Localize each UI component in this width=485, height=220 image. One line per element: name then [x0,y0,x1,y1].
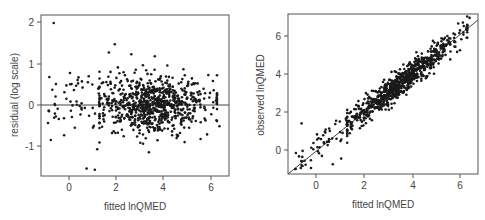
data-point [417,67,420,70]
data-point [135,96,138,99]
data-point [191,92,194,95]
data-point [202,87,205,90]
left-data-points [47,22,221,171]
data-point [446,39,449,42]
data-point [388,109,391,112]
data-point [171,77,174,80]
x-tick-label: 4 [410,180,416,191]
data-point [466,24,469,27]
data-point [79,113,82,116]
data-point [379,87,382,90]
data-point [407,79,410,82]
data-point [138,132,141,135]
data-point [58,118,61,121]
data-point [170,111,173,114]
data-point [113,86,116,89]
data-point [71,116,74,119]
data-point [156,124,159,127]
data-point [203,97,206,100]
data-point [421,52,424,55]
data-point [153,69,156,72]
data-point [156,139,159,142]
x-tick-label: 0 [66,182,72,193]
data-point [194,98,197,101]
data-point [98,103,101,106]
data-point [130,124,133,127]
data-point [93,125,96,128]
data-point [334,123,337,126]
data-point [457,22,460,25]
data-point [181,114,184,117]
data-point [69,100,72,103]
data-point [137,119,140,122]
data-point [177,114,180,117]
data-point [130,53,133,56]
data-point [166,79,169,82]
data-point [172,106,175,109]
data-point [310,159,313,162]
data-point [54,112,57,115]
data-point [161,92,164,95]
data-point [96,148,99,151]
data-point [193,104,196,107]
data-point [382,102,385,105]
data-point [155,89,158,92]
data-point [412,65,415,68]
data-point [301,156,304,159]
data-point [151,123,154,126]
data-point [169,99,172,102]
data-point [458,32,461,35]
data-point [130,115,133,118]
data-point [404,81,407,84]
data-point [183,126,186,129]
data-point [158,110,161,113]
data-point [440,40,443,43]
data-point [172,124,175,127]
data-point [151,111,154,114]
data-point [119,81,122,84]
data-point [168,121,171,124]
data-point [154,119,157,122]
data-point [432,40,435,43]
data-point [98,71,101,74]
data-point [379,91,382,94]
data-point [128,84,131,87]
data-point [449,37,452,40]
y-tick-label: 2 [275,107,281,118]
data-point [146,102,149,105]
data-point [183,87,186,90]
data-point [143,115,146,118]
data-point [149,82,152,85]
data-point [322,134,325,137]
data-point [191,83,194,86]
data-point [152,107,155,110]
data-point [117,102,120,105]
y-tick-label: 0 [275,145,281,156]
data-point [175,137,178,140]
data-point [148,116,151,119]
data-point [441,55,444,58]
data-point [428,72,431,75]
data-point [169,83,172,86]
data-point [431,62,434,65]
data-point [115,116,118,119]
data-point [109,71,112,74]
data-point [134,124,137,127]
data-point [130,80,133,83]
data-point [63,134,66,137]
data-point [466,31,469,34]
data-point [47,122,50,125]
data-point [52,22,55,25]
data-point [190,120,193,123]
data-point [346,135,349,138]
data-point [102,109,105,112]
data-point [161,83,164,86]
data-point [365,92,368,95]
data-point [65,84,68,87]
data-point [140,120,143,123]
data-point [443,49,446,52]
data-point [430,45,433,48]
data-point [133,71,136,74]
data-point [355,114,358,117]
data-point [138,129,141,132]
